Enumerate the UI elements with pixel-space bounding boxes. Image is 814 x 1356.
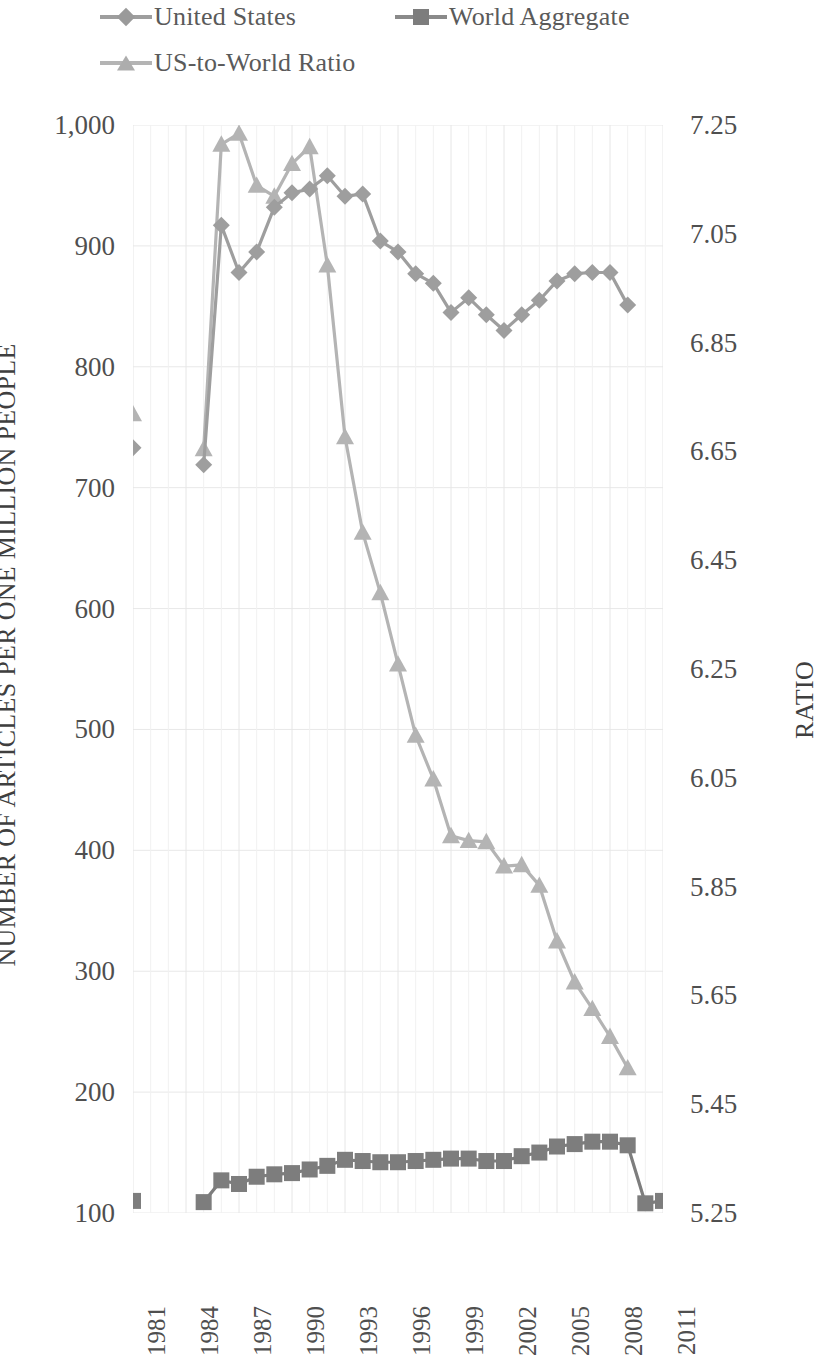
y-axis-left-tick-label: 900 (75, 232, 116, 259)
y-axis-right-tick-label: 7.05 (690, 220, 737, 247)
y-axis-left-tick-label: 1,000 (54, 112, 115, 139)
square-marker-icon (496, 1153, 512, 1169)
legend-item-world-aggregate: World Aggregate (395, 2, 630, 32)
square-marker-icon (620, 1137, 636, 1153)
legend-item-us-to-world-ratio: US-to-World Ratio (100, 48, 355, 78)
square-marker-icon (133, 1193, 141, 1209)
square-marker-icon (584, 1134, 600, 1150)
diamond-marker-icon (133, 439, 142, 456)
y-axis-left-tick-label: 200 (75, 1079, 116, 1106)
diamond-marker-icon (584, 264, 601, 281)
triangle-marker-icon (389, 655, 407, 671)
square-marker-icon (478, 1153, 494, 1169)
triangle-marker-icon (601, 1028, 619, 1044)
triangle-marker-icon (566, 973, 584, 989)
diamond-marker-icon (100, 6, 152, 28)
square-marker-icon (213, 1172, 229, 1188)
y-axis-right-tick-label: 5.85 (690, 873, 737, 900)
square-marker-icon (390, 1154, 406, 1170)
square-marker-icon (196, 1194, 212, 1210)
square-marker-icon (372, 1154, 388, 1170)
square-marker-icon (284, 1165, 300, 1181)
diamond-marker-icon (425, 275, 442, 292)
x-axis-tick-label: 2008 (621, 1306, 646, 1356)
y-axis-left-tick-label: 500 (75, 716, 116, 743)
triangle-marker-icon (548, 932, 566, 948)
y-axis-left-tick-label: 700 (75, 474, 116, 501)
square-marker-icon (655, 1193, 663, 1209)
square-marker-icon (567, 1136, 583, 1152)
triangle-marker-icon (100, 52, 152, 74)
y-axis-right-tick-label: 6.05 (690, 764, 737, 791)
series-united-states (133, 167, 636, 473)
triangle-marker-icon (212, 135, 230, 151)
square-marker-icon (602, 1134, 618, 1150)
square-marker-icon (461, 1151, 477, 1167)
square-marker-icon (549, 1139, 565, 1155)
legend-label-united-states: United States (154, 2, 296, 32)
y-axis-left-tick-label: 400 (75, 837, 116, 864)
legend-label-us-to-world-ratio: US-to-World Ratio (154, 48, 355, 78)
square-marker-icon (425, 1152, 441, 1168)
diamond-marker-icon (354, 185, 371, 202)
diamond-marker-icon (372, 233, 389, 250)
triangle-marker-icon (424, 770, 442, 786)
y-axis-left-tick-label: 800 (75, 353, 116, 380)
triangle-marker-icon (371, 584, 389, 600)
y-axis-right-ticks: 7.257.056.856.656.456.256.055.855.655.45… (690, 125, 810, 1213)
square-marker-icon (408, 1153, 424, 1169)
legend-label-world-aggregate: World Aggregate (449, 2, 630, 32)
chart-legend: United States World Aggregate US-to-Worl… (0, 0, 814, 92)
square-marker-icon (355, 1153, 371, 1169)
diamond-marker-icon (566, 265, 583, 282)
x-axis-ticks: 1981198419871990199319961999200220052008… (133, 1222, 663, 1310)
plot-canvas (133, 125, 663, 1213)
y-axis-right-tick-label: 6.85 (690, 329, 737, 356)
square-marker-icon (249, 1169, 265, 1185)
x-axis-tick-label: 1993 (356, 1306, 381, 1356)
y-axis-right-tick-label: 6.25 (690, 656, 737, 683)
y-axis-right-tick-label: 5.45 (690, 1091, 737, 1118)
triangle-marker-icon (301, 138, 319, 154)
triangle-marker-icon (133, 405, 142, 421)
x-axis-tick-label: 2011 (674, 1306, 699, 1355)
square-marker-icon (531, 1145, 547, 1161)
y-axis-left-tick-label: 600 (75, 595, 116, 622)
diamond-marker-icon (602, 264, 619, 281)
triangle-marker-icon (619, 1059, 637, 1075)
x-axis-tick-label: 1990 (303, 1306, 328, 1356)
series-us-to-world-ratio (133, 125, 637, 1075)
square-marker-icon (637, 1195, 653, 1211)
square-marker-icon (337, 1152, 353, 1168)
legend-item-united-states: United States (100, 2, 296, 32)
square-marker-icon (514, 1148, 530, 1164)
triangle-marker-icon (442, 827, 460, 843)
x-axis-tick-label: 1984 (197, 1306, 222, 1356)
triangle-marker-icon (354, 523, 372, 539)
diamond-marker-icon (619, 297, 636, 314)
square-marker-icon (443, 1151, 459, 1167)
square-marker-icon (395, 6, 447, 28)
y-axis-right-tick-label: 6.45 (690, 547, 737, 574)
diamond-marker-icon (195, 456, 212, 473)
y-axis-left-tick-label: 300 (75, 958, 116, 985)
y-axis-right-tick-label: 5.25 (690, 1200, 737, 1227)
square-marker-icon (266, 1166, 282, 1182)
triangle-marker-icon (318, 256, 336, 272)
triangle-marker-icon (248, 176, 266, 192)
plot-area (133, 125, 663, 1213)
square-marker-icon (302, 1161, 318, 1177)
x-axis-tick-label: 1981 (144, 1306, 169, 1356)
triangle-marker-icon (230, 125, 248, 141)
y-axis-right-tick-label: 6.65 (690, 438, 737, 465)
y-axis-right-tick-label: 5.65 (690, 982, 737, 1009)
x-axis-tick-label: 2002 (515, 1306, 540, 1356)
y-axis-left-ticks: 1,000900800700600500400300200100 (0, 125, 115, 1213)
x-axis-tick-label: 1987 (250, 1306, 275, 1356)
square-marker-icon (319, 1158, 335, 1174)
triangle-marker-icon (583, 1000, 601, 1016)
y-axis-right-tick-label: 7.25 (690, 112, 737, 139)
triangle-marker-icon (336, 428, 354, 444)
y-axis-left-tick-label: 100 (75, 1200, 116, 1227)
